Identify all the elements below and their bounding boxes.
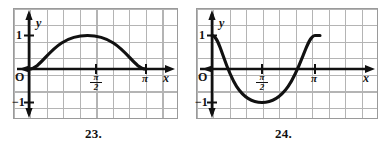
caption-24: 24. [275,126,292,142]
x-axis-label-23: x [163,72,169,84]
fraction-numerator: π [256,73,268,82]
x-tick-label-pi-over-2-23: π 2 [90,73,102,93]
x-axis-label-24: x [363,72,369,84]
curve-sin-x [29,36,146,70]
x-tick-label-pi-24: π [311,73,317,84]
x-tick-label-pi-over-2-24: π 2 [256,73,268,93]
graph-panel-24: y x O 1 −1 π 2 π [196,8,378,119]
graph-panel-23: y x O 1 −1 π 2 π [13,8,178,119]
y-tick-label-neg1-24: −1 [195,96,208,108]
y-tick-label-1-24: 1 [199,29,205,41]
fraction-numerator: π [90,73,102,82]
fraction-denominator: 2 [256,82,268,92]
x-tick-label-pi-23: π [142,73,148,84]
y-axis-label-24: y [219,17,224,29]
origin-label-23: O [15,71,24,83]
caption-23: 23. [85,126,102,142]
y-tick-label-neg1-23: −1 [12,96,25,108]
origin-label-24: O [198,71,207,83]
y-tick-label-1-23: 1 [16,29,22,41]
y-axis-label-23: y [36,17,41,29]
fraction-denominator: 2 [90,82,102,92]
figure-root: y x O 1 −1 π 2 π 23. [0,0,392,145]
